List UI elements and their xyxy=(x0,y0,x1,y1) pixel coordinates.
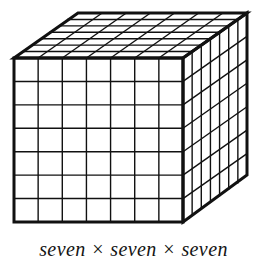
cube-face-front xyxy=(14,58,183,222)
figure-root: seven × seven × seven xyxy=(0,0,267,268)
cube-diagram xyxy=(0,0,267,240)
figure-caption: seven × seven × seven xyxy=(0,236,267,262)
